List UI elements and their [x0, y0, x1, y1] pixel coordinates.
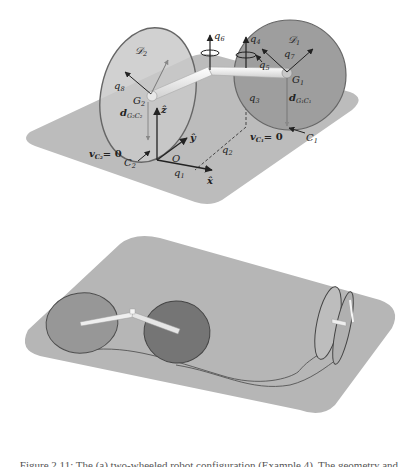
label-origin: O — [172, 153, 180, 164]
bottom-axle-joint — [130, 309, 135, 314]
label-axis-y: ŷ — [189, 132, 197, 143]
label-axis-z: ẑ — [160, 104, 167, 115]
label-q6: q6 — [214, 30, 225, 43]
top-panel: 𝒟2 𝒟1 q8 G2 dG₂C₂ q6 q4 q5 q7 G1 q3 dG₁C… — [26, 19, 359, 204]
figure-caption: Figure 2.11: The (a) two-wheeled robot c… — [0, 458, 418, 467]
two-wheeled-robot-figure: 𝒟2 𝒟1 q8 G2 dG₂C₂ q6 q4 q5 q7 G1 q3 dG₁C… — [0, 0, 418, 467]
label-axis-x: x̂ — [206, 175, 214, 186]
bottom-panel — [25, 236, 395, 413]
